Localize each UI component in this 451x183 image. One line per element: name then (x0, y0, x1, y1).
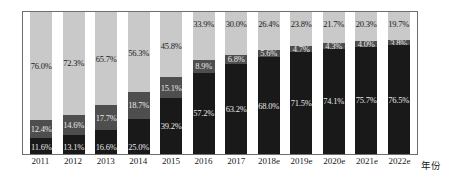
bar-segment-middle: 15.1% (160, 77, 182, 98)
x-axis-tick-2020e: 2020e (323, 156, 345, 166)
bar-segment-middle: 12.4% (30, 120, 52, 138)
bar-column: 26.4%5.6%68.0% (258, 12, 280, 154)
stacked-bar-chart: 76.0%12.4%11.6%72.3%14.6%13.1%65.7%17.7%… (0, 0, 451, 183)
bar-value-label-top: 26.4% (258, 20, 279, 29)
bar-column: 21.7%4.3%74.1% (323, 12, 345, 154)
bar-segment-bottom: 39.2% (160, 98, 182, 154)
bar-column: 45.8%15.1%39.2% (160, 12, 182, 154)
bar-segment-bottom: 63.2% (225, 64, 247, 154)
bar-value-label-bottom: 13.1% (63, 143, 84, 152)
bar-segment-bottom: 11.6% (30, 138, 52, 154)
bar-segment-bottom: 74.1% (323, 49, 345, 154)
bar-segment-top: 33.9% (193, 12, 215, 60)
bar-column: 33.9%8.9%57.2% (193, 12, 215, 154)
bar-value-label-middle: 8.9% (195, 62, 212, 71)
bar-segment-top: 30.0% (225, 12, 247, 55)
bar-column: 20.3%4.0%75.7% (355, 12, 377, 154)
bar-segment-bottom: 71.5% (290, 52, 312, 154)
bar-column: 23.8%4.7%71.5% (290, 12, 312, 154)
bar-value-label-bottom: 74.1% (323, 97, 344, 106)
x-axis-tick-2015: 2015 (160, 156, 182, 166)
bar-value-label-bottom: 76.5% (388, 96, 409, 105)
bar-segment-top: 76.0% (30, 12, 52, 120)
bar-column: 19.7%3.8%76.5% (388, 12, 410, 154)
bar-segment-bottom: 75.7% (355, 47, 377, 154)
bar-value-label-top: 33.9% (193, 20, 214, 29)
bar-value-label-bottom: 39.2% (161, 122, 182, 131)
bar-segment-middle: 18.7% (128, 92, 150, 119)
bar-segment-middle: 5.6% (258, 50, 280, 58)
bar-value-label-top: 76.0% (31, 62, 52, 71)
x-axis-tick-2013: 2013 (95, 156, 117, 166)
x-axis-tick-2018e: 2018e (258, 156, 280, 166)
bar-value-label-middle: 17.7% (96, 114, 117, 123)
x-axis-tick-2021e: 2021e (356, 156, 378, 166)
bar-value-label-bottom: 68.0% (258, 102, 279, 111)
bar-segment-bottom: 13.1% (63, 135, 85, 154)
bar-value-label-top: 56.3% (128, 49, 149, 58)
bar-segment-middle: 8.9% (193, 60, 215, 73)
x-axis-tick-2012: 2012 (62, 156, 84, 166)
bar-column: 72.3%14.6%13.1% (63, 12, 85, 154)
bar-column: 30.0%6.8%63.2% (225, 12, 247, 154)
bar-value-label-top: 30.0% (226, 20, 247, 29)
bar-value-label-middle: 14.6% (63, 121, 84, 130)
bar-value-label-bottom: 57.2% (193, 109, 214, 118)
bars-container: 76.0%12.4%11.6%72.3%14.6%13.1%65.7%17.7%… (23, 12, 417, 154)
x-axis-tick-2022e: 2022e (389, 156, 411, 166)
bar-value-label-middle: 15.1% (161, 84, 182, 93)
bar-segment-top: 26.4% (258, 12, 280, 49)
bar-value-label-bottom: 71.5% (291, 99, 312, 108)
x-axis-tick-labels: 20112012201320142015201620172018e2019e20… (22, 156, 418, 172)
x-axis-tick-2019e: 2019e (291, 156, 313, 166)
bar-value-label-middle: 12.4% (31, 125, 52, 134)
bar-segment-top: 65.7% (95, 12, 117, 105)
bar-segment-top: 21.7% (323, 12, 345, 43)
bar-value-label-bottom: 75.7% (356, 96, 377, 105)
bar-segment-bottom: 25.0% (128, 119, 150, 155)
x-axis-tick-2017: 2017 (225, 156, 247, 166)
bar-value-label-bottom: 25.0% (128, 143, 149, 152)
bar-value-label-top: 65.7% (96, 55, 117, 64)
x-axis-title: 年份 (421, 158, 441, 172)
bar-value-label-top: 19.7% (388, 20, 409, 29)
bar-value-label-top: 23.8% (291, 20, 312, 29)
bar-segment-bottom: 16.6% (95, 130, 117, 154)
bar-value-label-top: 20.3% (356, 20, 377, 29)
bar-segment-top: 72.3% (63, 12, 85, 115)
bar-value-label-bottom: 11.6% (31, 143, 52, 152)
bar-value-label-top: 72.3% (63, 59, 84, 68)
bar-segment-middle: 17.7% (95, 105, 117, 130)
bar-segment-top: 56.3% (128, 12, 150, 92)
bar-segment-bottom: 57.2% (193, 73, 215, 154)
bar-segment-top: 19.7% (388, 12, 410, 40)
bar-segment-top: 45.8% (160, 12, 182, 77)
bar-segment-middle: 6.8% (225, 55, 247, 65)
bar-segment-bottom: 68.0% (258, 57, 280, 154)
bar-column: 56.3%18.7%25.0% (128, 12, 150, 154)
bar-value-label-bottom: 63.2% (226, 105, 247, 114)
x-axis-tick-2016: 2016 (193, 156, 215, 166)
bar-value-label-middle: 18.7% (128, 101, 149, 110)
bar-value-label-top: 21.7% (323, 20, 344, 29)
x-axis-tick-2014: 2014 (127, 156, 149, 166)
bar-value-label-middle: 6.8% (228, 55, 245, 64)
bar-segment-top: 23.8% (290, 12, 312, 46)
bar-value-label-top: 45.8% (161, 42, 182, 51)
plot-area: 76.0%12.4%11.6%72.3%14.6%13.1%65.7%17.7%… (22, 11, 418, 155)
bar-column: 65.7%17.7%16.6% (95, 12, 117, 154)
x-axis-tick-2011: 2011 (29, 156, 51, 166)
bar-segment-bottom: 76.5% (388, 45, 410, 154)
bar-segment-middle: 14.6% (63, 115, 85, 136)
bar-value-label-bottom: 16.6% (96, 143, 117, 152)
bar-segment-top: 20.3% (355, 12, 377, 41)
bar-segment-middle: 4.7% (290, 46, 312, 53)
bar-column: 76.0%12.4%11.6% (30, 12, 52, 154)
